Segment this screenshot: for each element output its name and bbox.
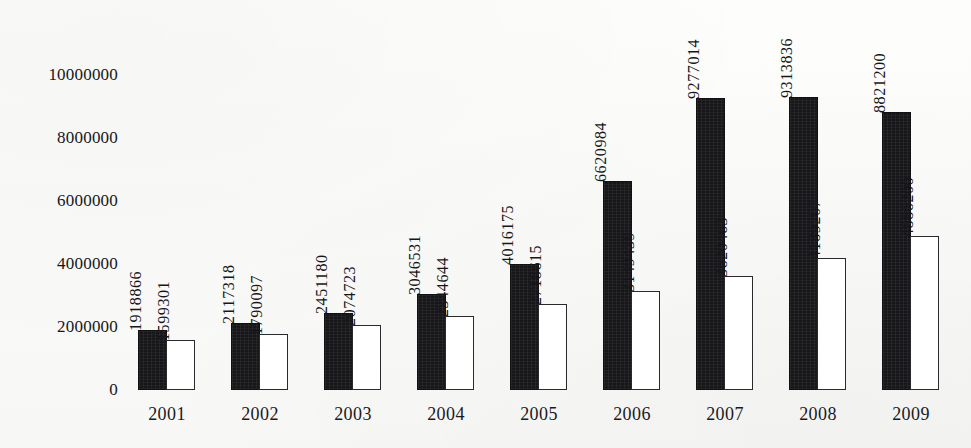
y-axis-tick-label: 4000000	[57, 254, 118, 274]
bar-value-label: 2117318	[221, 265, 237, 325]
x-axis-tick-label: 2004	[406, 404, 486, 425]
bar-chart: 0200000040000006000000800000010000000 19…	[0, 0, 971, 448]
bar-value-label: 3620463	[714, 217, 730, 277]
bar-value-label: 1599301	[156, 280, 172, 340]
bar-series-2[interactable]: 2074723	[352, 325, 381, 390]
bar-value-label: 2451180	[314, 254, 330, 314]
bar-pair: 21173181790097	[231, 58, 289, 390]
bar-value-label: 8821200	[872, 53, 888, 113]
y-axis-tick-label: 8000000	[57, 128, 118, 148]
y-axis-tick-label: 6000000	[57, 191, 118, 211]
bar-value-label: 1790097	[249, 274, 265, 334]
y-axis: 0200000040000006000000800000010000000	[0, 0, 128, 448]
bar-value-label: 1918866	[128, 270, 144, 330]
bar-pair: 88212004886200	[882, 58, 940, 390]
bar-pair: 19188661599301	[138, 58, 196, 390]
bar-value-label: 3046531	[407, 235, 423, 295]
bar-series-2[interactable]: 2344644	[445, 316, 474, 390]
bar-pair: 30465312344644	[417, 58, 475, 390]
bar-value-label: 2718615	[528, 245, 544, 305]
bar-group: 19188661599301	[138, 58, 196, 390]
y-axis-tick-label: 10000000	[48, 65, 118, 85]
bar-series-2[interactable]: 1599301	[166, 340, 195, 390]
x-axis-tick-label: 2007	[685, 404, 765, 425]
bar-value-label: 9313836	[779, 37, 795, 97]
bar-group: 24511802074723	[324, 58, 382, 390]
bar-value-label: 6620984	[593, 122, 609, 182]
x-axis-tick-label: 2008	[778, 404, 858, 425]
y-axis-tick-label: 0	[109, 380, 118, 400]
bar-group: 40161752718615	[510, 58, 568, 390]
bar-value-label: 2074723	[342, 265, 358, 325]
bar-value-label: 4016175	[500, 204, 516, 264]
bar-series-1[interactable]: 8821200	[882, 112, 911, 390]
bar-series-2[interactable]: 3620463	[724, 276, 753, 390]
x-axis-tick-label: 2003	[313, 404, 393, 425]
bar-group: 92770143620463	[696, 58, 754, 390]
x-axis-tick-label: 2009	[871, 404, 951, 425]
bar-value-label: 4886200	[900, 177, 916, 237]
x-axis-tick-label: 2001	[127, 404, 207, 425]
bar-group: 88212004886200	[882, 58, 940, 390]
bar-group: 30465312344644	[417, 58, 475, 390]
bar-series-2[interactable]: 4189207	[817, 258, 846, 390]
bar-group: 66209843149439	[603, 58, 661, 390]
bar-series-2[interactable]: 1790097	[259, 334, 288, 390]
bar-group: 93138364189207	[789, 58, 847, 390]
bar-pair: 40161752718615	[510, 58, 568, 390]
bar-pair: 92770143620463	[696, 58, 754, 390]
bar-series-2[interactable]: 3149439	[631, 291, 660, 390]
bar-value-label: 9277014	[686, 39, 702, 99]
bar-pair: 24511802074723	[324, 58, 382, 390]
bar-series-2[interactable]: 4886200	[910, 236, 939, 390]
x-axis-tick-label: 2006	[592, 404, 672, 425]
x-axis-tick-label: 2002	[220, 404, 300, 425]
bar-group: 21173181790097	[231, 58, 289, 390]
y-axis-tick-label: 2000000	[57, 317, 118, 337]
plot-area: 1918866159930121173181790097245118020747…	[130, 0, 971, 448]
bar-pair: 66209843149439	[603, 58, 661, 390]
bar-pair: 93138364189207	[789, 58, 847, 390]
bar-value-label: 4189207	[807, 199, 823, 259]
x-axis: 200120022003200420052006200720082009	[130, 404, 971, 448]
x-axis-tick-label: 2005	[499, 404, 579, 425]
bar-series-2[interactable]: 2718615	[538, 304, 567, 390]
bar-value-label: 3149439	[621, 232, 637, 292]
bar-value-label: 2344644	[435, 257, 451, 317]
